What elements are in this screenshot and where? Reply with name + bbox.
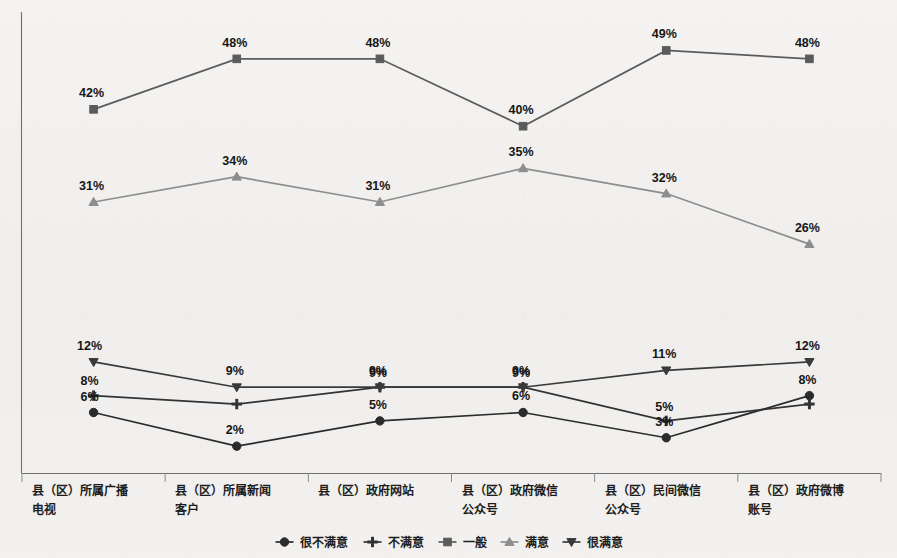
category-label: 县（区）政府微博账号 [748,483,844,517]
data-point-square[interactable] [662,47,670,55]
chart-page: 6%2%5%6%3%8%8%9%9%5%42%48%48%40%49%48%31… [0,0,897,558]
data-label: 35% [509,145,534,159]
data-label: 48% [222,36,247,50]
x-axis-ticks [22,473,881,482]
data-label: 42% [79,86,104,100]
data-label: 9% [512,364,530,378]
category-label: 县（区）政府微信公众号 [462,483,558,517]
data-label: 12% [77,339,102,353]
data-point-triangle[interactable] [232,172,241,180]
legend-item-一般[interactable]: 一般 [439,535,487,550]
data-point-circle[interactable] [89,408,97,416]
data-point-square[interactable] [519,122,527,130]
series-1 [88,382,814,426]
satisfaction-line-chart: 6%2%5%6%3%8%8%9%9%5%42%48%48%40%49%48%31… [0,0,897,558]
data-label: 34% [222,154,247,168]
legend-marker-circle [280,538,288,546]
data-label: 2% [226,423,244,437]
x-axis-category-labels: 县（区）所属广播电视县（区）所属新闻客户县（区）政府网站县（区）政府微信公众号县… [32,483,844,517]
series-line [94,396,810,447]
legend-item-满意[interactable]: 满意 [501,535,549,550]
data-point-circle[interactable] [519,408,527,416]
data-label: 31% [365,179,390,193]
category-label: 县（区）所属新闻客户 [174,483,271,517]
series-line [94,362,810,387]
category-label: 县（区）所属广播电视 [32,483,129,517]
data-label: 48% [365,36,390,50]
series-line [94,50,810,126]
data-label: 8% [798,373,816,387]
data-point-circle[interactable] [805,391,813,399]
legend-label: 很满意 [586,535,623,550]
legend-item-很满意[interactable]: 很满意 [563,535,623,550]
chart-legend[interactable]: 很不满意不满意一般满意很满意 [276,535,623,550]
legend-label: 满意 [525,535,549,550]
data-point-plus[interactable] [804,399,814,409]
data-point-circle[interactable] [662,434,670,442]
series-0 [89,391,813,450]
category-label: 县（区）政府网站 [318,483,414,498]
legend-item-不满意[interactable]: 不满意 [364,535,424,550]
data-label: 48% [795,36,820,50]
legend-label: 不满意 [388,535,424,550]
legend-marker-square [444,538,452,546]
series-2 [90,47,813,130]
chart-series [88,47,814,451]
data-label: 6% [81,390,99,404]
data-label: 32% [652,171,677,185]
data-point-plus[interactable] [232,399,242,409]
series-3 [89,164,814,248]
legend-marker-plus [367,537,377,547]
data-label: 5% [655,400,673,414]
data-point-square[interactable] [806,55,814,63]
series-4 [89,359,814,392]
data-label: 6% [512,389,530,403]
data-label: 40% [509,103,534,117]
data-point-circle[interactable] [376,417,384,425]
category-label: 县（区）民间微信公众号 [605,483,701,517]
data-point-circle[interactable] [233,442,241,450]
legend-label: 一般 [463,535,487,550]
data-label: 49% [652,27,677,41]
data-label: 8% [81,374,99,388]
data-point-triangle[interactable] [518,164,527,172]
data-label: 11% [652,347,676,361]
data-label: 3% [655,415,673,429]
legend-item-很不满意[interactable]: 很不满意 [276,535,348,550]
data-label: 31% [79,179,104,193]
chart-data-labels: 6%2%5%6%3%8%8%9%9%5%42%48%48%40%49%48%31… [77,27,820,437]
data-label: 9% [369,364,387,378]
series-line [94,168,810,244]
data-label: 9% [226,364,244,378]
data-point-square[interactable] [90,106,98,114]
data-label: 26% [795,221,820,235]
data-point-square[interactable] [233,55,241,63]
legend-label: 很不满意 [299,535,348,550]
data-label: 12% [795,339,820,353]
data-label: 5% [369,398,387,412]
data-point-square[interactable] [376,55,384,63]
